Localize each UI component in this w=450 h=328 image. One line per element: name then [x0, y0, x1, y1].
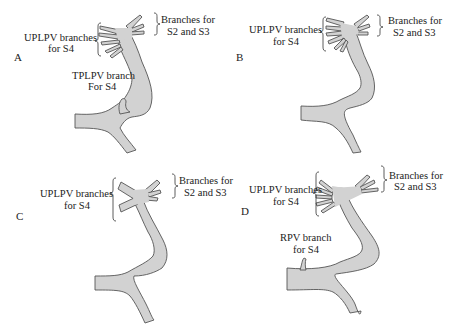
- s2s3-brace-d: [381, 166, 387, 192]
- s2s3-branches-c: [132, 180, 161, 205]
- rpv-label-d-line1: RPV branch: [280, 232, 332, 243]
- uplpv-label-c-line2: for S4: [64, 200, 91, 211]
- uplpv-label-d-line2: for S4: [273, 196, 300, 207]
- s2s3-label-c-line2: S2 and S3: [184, 187, 227, 198]
- panel-letter-b: B: [236, 51, 243, 63]
- s2s3-brace-a: [154, 13, 160, 35]
- s2s3-label-d-line2: S2 and S3: [394, 181, 437, 192]
- portal-vein-trunk: [95, 200, 167, 323]
- rpv-branch-vessel: [300, 258, 306, 270]
- panel-c: UPLPV branches for S4 Branches for S2 an…: [16, 174, 233, 323]
- s2s3-brace-b: [377, 15, 383, 36]
- uplpv-label-b-line2: for S4: [273, 36, 300, 47]
- uplpv-label-a-line1: UPLPV branches: [24, 32, 97, 43]
- portal-vein-variation-figure: UPLPV branches for S4 Branches for S2 an…: [0, 0, 450, 328]
- s2s3-branches-d: [332, 175, 378, 207]
- uplpv-label-b-line1: UPLPV branches: [249, 24, 322, 35]
- s2s3-label-b-line1: Branches for: [388, 15, 442, 26]
- s2s3-branches-a: [115, 15, 144, 40]
- uplpv-label-c-line1: UPLPV branches: [40, 188, 113, 199]
- rpv-label-d-line2: for S4: [293, 244, 320, 255]
- tplpv-label-a-line1: TPLPV branch: [72, 70, 136, 81]
- panel-letter-c: C: [16, 210, 23, 222]
- s2s3-label-c-line1: Branches for: [179, 175, 233, 186]
- s2s3-brace-c: [172, 174, 178, 198]
- s2s3-label-b-line2: S2 and S3: [393, 27, 436, 38]
- s2s3-label-a-line1: Branches for: [161, 14, 215, 25]
- s2s3-label-d-line1: Branches for: [389, 170, 443, 181]
- s2s3-branches-b: [340, 15, 370, 38]
- panel-d: UPLPV branches for S4 Branches for S2 an…: [241, 166, 443, 314]
- panel-b: UPLPV branches for S4 Branches for S2 an…: [236, 15, 442, 153]
- tplpv-label-a-line2: For S4: [88, 81, 117, 92]
- panel-a: UPLPV branches for S4 Branches for S2 an…: [14, 13, 215, 153]
- uplpv-brace-c: [110, 178, 116, 221]
- s2s3-label-a-line2: S2 and S3: [167, 26, 210, 37]
- panel-letter-a: A: [14, 51, 22, 63]
- uplpv-label-d-line1: UPLPV branches: [249, 184, 322, 195]
- panel-letter-d: D: [241, 205, 249, 217]
- uplpv-label-a-line2: for S4: [48, 43, 75, 54]
